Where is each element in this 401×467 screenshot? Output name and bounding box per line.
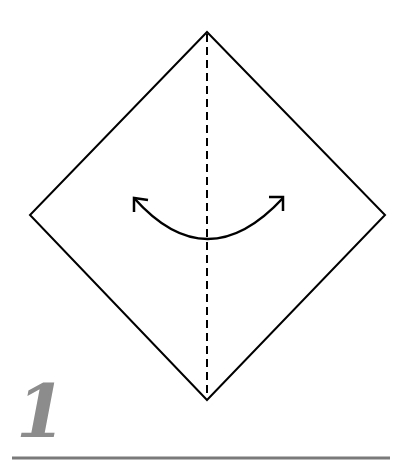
fold-unfold-arrow (134, 198, 283, 239)
step-number: 1 (16, 372, 66, 452)
